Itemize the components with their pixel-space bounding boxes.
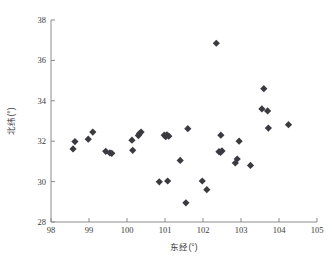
data-point — [217, 132, 224, 139]
data-point — [164, 177, 171, 184]
data-point — [260, 85, 267, 92]
axis-tick-labels: 9899100101102103104105283032343638 — [38, 15, 324, 235]
x-tick-label: 101 — [159, 225, 172, 235]
y-tick-label: 28 — [38, 217, 47, 227]
data-point — [71, 138, 78, 145]
data-point — [182, 199, 189, 206]
chart-canvas: 9899100101102103104105283032343638 东经(°)… — [0, 0, 332, 275]
axes — [51, 20, 317, 222]
axis-spines — [51, 20, 317, 222]
y-tick-label: 38 — [38, 15, 47, 25]
y-tick-label: 34 — [38, 96, 47, 106]
x-axis-title: 东经(°) — [170, 242, 197, 252]
data-point — [199, 177, 206, 184]
data-point — [247, 162, 254, 169]
scatter-plot-figure: 9899100101102103104105283032343638 东经(°)… — [0, 0, 332, 275]
x-tick-label: 102 — [197, 225, 210, 235]
y-axis-title: 北纬(°) — [6, 107, 16, 134]
data-point — [184, 125, 191, 132]
data-point — [128, 137, 135, 144]
data-point — [258, 105, 265, 112]
data-point — [236, 138, 243, 145]
data-point — [213, 40, 220, 47]
y-tick-label: 30 — [38, 177, 47, 187]
y-tick-label: 32 — [38, 136, 47, 146]
data-point — [69, 145, 76, 152]
x-tick-label: 104 — [273, 225, 287, 235]
x-tick-label: 98 — [47, 225, 56, 235]
x-tick-label: 99 — [85, 225, 94, 235]
data-point — [285, 121, 292, 128]
data-point — [89, 129, 96, 136]
data-point — [177, 157, 184, 164]
x-tick-label: 100 — [121, 225, 134, 235]
data-point — [264, 107, 271, 114]
x-tick-label: 103 — [235, 225, 248, 235]
data-point — [129, 147, 136, 154]
y-tick-label: 36 — [38, 55, 47, 65]
axis-ticks — [51, 20, 317, 222]
data-point — [265, 124, 272, 131]
data-point — [85, 136, 92, 143]
data-points — [69, 40, 292, 207]
data-point — [156, 178, 163, 185]
x-tick-label: 105 — [311, 225, 324, 235]
data-point — [203, 186, 210, 193]
